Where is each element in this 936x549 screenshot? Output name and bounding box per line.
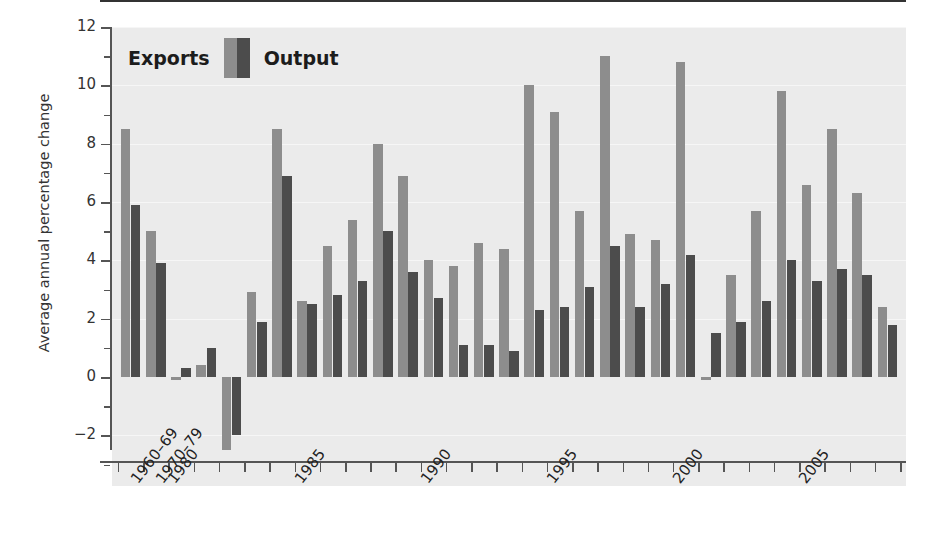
bar-output-1996 xyxy=(585,287,595,377)
bar-exports-1980 xyxy=(171,377,181,380)
bar-exports-1988 xyxy=(373,144,383,377)
bar-output-1989 xyxy=(408,272,418,377)
y-tick-minor xyxy=(104,348,110,350)
x-tick xyxy=(850,461,852,472)
bar-output-1984 xyxy=(282,176,292,377)
bar-output-1960–69 xyxy=(131,205,141,377)
bar-output-1998 xyxy=(635,307,645,377)
bar-output-2005 xyxy=(812,281,822,377)
bar-output-1999 xyxy=(661,284,671,377)
bar-exports-1982 xyxy=(222,377,232,450)
bar-exports-2002 xyxy=(726,275,736,377)
bar-output-2006 xyxy=(837,269,847,377)
bar-exports-1981 xyxy=(196,365,206,377)
y-tick-major xyxy=(101,85,110,87)
y-tick-major xyxy=(101,144,110,146)
bar-output-2008 xyxy=(888,325,898,378)
y-tick-label: 4 xyxy=(56,252,96,267)
bar-output-1980 xyxy=(181,368,191,377)
bar-output-1988 xyxy=(383,231,393,377)
y-tick-major xyxy=(101,260,110,262)
x-tick xyxy=(370,461,372,472)
y-tick-minor xyxy=(104,115,110,117)
bar-exports-1987 xyxy=(348,220,358,378)
bar-exports-1996 xyxy=(575,211,585,377)
legend-label-output: Output xyxy=(264,47,339,69)
legend: Exports Output xyxy=(128,38,339,78)
bar-exports-1993 xyxy=(499,249,509,377)
y-axis-line xyxy=(110,27,112,450)
x-tick xyxy=(774,461,776,472)
y-tick-major xyxy=(101,202,110,204)
bar-output-2004 xyxy=(787,260,797,377)
bar-exports-1983 xyxy=(247,292,257,377)
x-tick xyxy=(723,461,725,472)
y-tick-major xyxy=(101,319,110,321)
y-tick-minor xyxy=(104,465,110,467)
x-tick xyxy=(496,461,498,472)
x-tick xyxy=(900,461,902,472)
y-tick-label: 6 xyxy=(56,194,96,209)
bar-exports-2006 xyxy=(827,129,837,377)
bar-exports-1989 xyxy=(398,176,408,377)
bar-output-1985 xyxy=(307,304,317,377)
legend-swatch xyxy=(224,38,250,78)
bar-output-1993 xyxy=(509,351,519,377)
bar-exports-1994 xyxy=(524,85,534,377)
zero-baseline xyxy=(100,0,906,2)
x-tick xyxy=(219,461,221,472)
x-tick xyxy=(244,461,246,472)
y-tick-minor xyxy=(104,406,110,408)
x-axis-line xyxy=(100,461,906,463)
y-tick-minor xyxy=(104,173,110,175)
x-tick xyxy=(471,461,473,472)
x-tick xyxy=(269,461,271,472)
gridline xyxy=(112,85,906,86)
bar-exports-1992 xyxy=(474,243,484,377)
bar-exports-1970–79 xyxy=(146,231,156,377)
bar-exports-2007 xyxy=(852,193,862,377)
bar-output-1997 xyxy=(610,246,620,377)
x-tick xyxy=(623,461,625,472)
bar-output-2003 xyxy=(762,301,772,377)
y-tick-minor xyxy=(104,231,110,233)
bar-output-1991 xyxy=(459,345,469,377)
y-tick-label: 2 xyxy=(56,311,96,326)
bar-exports-1998 xyxy=(625,234,635,377)
legend-swatch-output xyxy=(237,38,250,78)
bar-exports-2000 xyxy=(676,62,686,377)
bar-output-1982 xyxy=(232,377,242,435)
y-tick-label: 8 xyxy=(56,136,96,151)
bar-output-1995 xyxy=(560,307,570,377)
y-tick-major xyxy=(101,377,110,379)
gridline xyxy=(112,27,906,28)
bar-output-1990 xyxy=(434,298,444,377)
y-axis-title: Average annual percentage change xyxy=(36,63,52,383)
bar-exports-2005 xyxy=(802,185,812,378)
bar-exports-1960–69 xyxy=(121,129,131,377)
bar-exports-1986 xyxy=(323,246,333,377)
bar-output-1992 xyxy=(484,345,494,377)
y-tick-minor xyxy=(104,290,110,292)
bar-exports-2001 xyxy=(701,377,711,380)
bar-exports-2008 xyxy=(878,307,888,377)
legend-label-exports: Exports xyxy=(128,47,210,69)
x-tick xyxy=(395,461,397,472)
bar-exports-1985 xyxy=(297,301,307,377)
x-tick xyxy=(648,461,650,472)
legend-swatch-exports xyxy=(224,38,237,78)
gridline xyxy=(112,144,906,145)
bar-output-2002 xyxy=(736,322,746,377)
y-tick-major xyxy=(101,27,110,29)
x-tick xyxy=(522,461,524,472)
x-tick xyxy=(875,461,877,472)
bar-output-2007 xyxy=(862,275,872,377)
bar-exports-1995 xyxy=(550,112,560,377)
x-tick xyxy=(749,461,751,472)
bar-output-2000 xyxy=(686,255,696,378)
bar-exports-1997 xyxy=(600,56,610,377)
gridline xyxy=(112,202,906,203)
y-tick-minor xyxy=(104,56,110,58)
y-tick-label: 12 xyxy=(56,19,96,34)
bar-exports-1984 xyxy=(272,129,282,377)
